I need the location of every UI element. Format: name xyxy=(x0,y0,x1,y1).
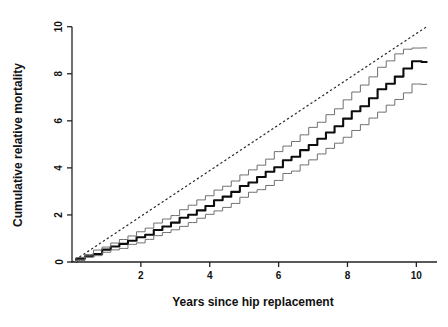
y-tick-label: 6 xyxy=(54,118,65,124)
y-tick-label: 8 xyxy=(54,71,65,77)
x-axis-title: Years since hip replacement xyxy=(172,295,333,309)
y-tick-label: 2 xyxy=(54,212,65,218)
x-axis-ticks: 246810 xyxy=(138,262,422,281)
chart-figure: 0246810 246810 Years since hip replaceme… xyxy=(0,0,448,327)
y-tick-label: 4 xyxy=(54,165,65,171)
x-tick-label: 10 xyxy=(411,270,423,281)
data-curves xyxy=(72,27,427,262)
curve-reference xyxy=(72,27,427,262)
y-tick-label: 10 xyxy=(54,21,65,33)
curve-estimate xyxy=(72,61,427,262)
y-tick-label: 0 xyxy=(54,259,65,265)
x-tick-label: 8 xyxy=(345,270,351,281)
y-axis-ticks: 0246810 xyxy=(54,21,73,265)
x-axis: 246810 xyxy=(72,262,437,281)
x-tick-label: 4 xyxy=(207,270,213,281)
x-tick-label: 6 xyxy=(276,270,282,281)
curve-confidence-limit xyxy=(72,48,427,262)
y-axis-title: Cumulative relative mortality xyxy=(11,63,25,227)
cumulative-relative-mortality-chart: 0246810 246810 Years since hip replaceme… xyxy=(0,0,448,327)
x-tick-label: 2 xyxy=(138,270,144,281)
y-axis: 0246810 xyxy=(54,21,73,265)
curve-confidence-limit xyxy=(72,84,427,262)
